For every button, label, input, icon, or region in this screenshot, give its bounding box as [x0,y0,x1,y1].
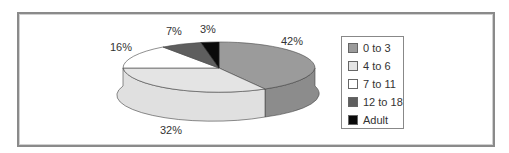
label-12-to-18: 7% [166,25,182,37]
legend-swatch-icon [348,97,358,107]
legend-item-4-to-6: 4 to 6 [348,59,391,73]
label-7-to-11: 16% [110,41,132,53]
legend-item-7-to-11: 7 to 11 [348,77,396,91]
legend-swatch-icon [348,79,358,89]
pie-chart: 42% 32% 16% 7% 3% [0,0,509,153]
legend-swatch-icon [348,115,358,125]
legend-label: 7 to 11 [363,78,396,90]
legend-item-adult: Adult [348,113,388,127]
label-4-to-6: 32% [160,124,182,136]
legend-label: 4 to 6 [363,60,391,72]
legend-swatch-icon [348,43,358,53]
legend-swatch-icon [348,61,358,71]
legend-label: 12 to 18 [363,96,403,108]
legend: 0 to 3 4 to 6 7 to 11 12 to 18 Adult [341,36,404,129]
legend-item-0-to-3: 0 to 3 [348,41,391,55]
legend-label: Adult [363,114,388,126]
legend-item-12-to-18: 12 to 18 [348,95,403,109]
label-0-to-3: 42% [281,35,303,47]
label-adult: 3% [200,23,216,35]
legend-label: 0 to 3 [363,42,391,54]
